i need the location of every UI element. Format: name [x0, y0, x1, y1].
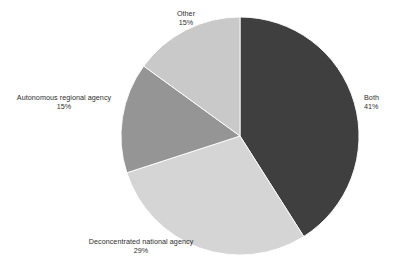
pie-label-autonomous-regional-agency-name: Autonomous regional agency: [8, 93, 120, 102]
pie-label-other-value: 15%: [155, 18, 217, 27]
pie-label-both: Both 41%: [364, 93, 394, 112]
pie-label-both-value: 41%: [364, 102, 394, 111]
pie-chart: Other 15% Autonomous regional agency 15%…: [0, 0, 396, 276]
pie-label-deconcentrated-national-agency-value: 29%: [67, 246, 215, 255]
pie-label-other: Other 15%: [155, 9, 217, 28]
pie-slice-group: [121, 17, 359, 255]
pie-label-deconcentrated-national-agency: Deconcentrated national agency 29%: [67, 237, 215, 256]
pie-label-both-name: Both: [364, 93, 394, 102]
pie-label-autonomous-regional-agency: Autonomous regional agency 15%: [8, 93, 120, 112]
pie-label-autonomous-regional-agency-value: 15%: [8, 102, 120, 111]
pie-label-deconcentrated-national-agency-name: Deconcentrated national agency: [67, 237, 215, 246]
pie-chart-canvas: [0, 0, 396, 276]
pie-label-other-name: Other: [155, 9, 217, 18]
